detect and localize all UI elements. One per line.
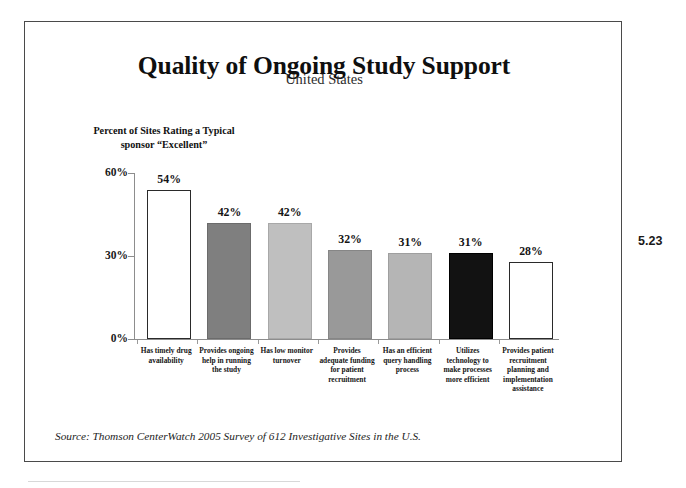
category-label-line: query handling xyxy=(376,356,438,366)
y-axis-tick-label: 30% xyxy=(82,249,128,261)
x-axis-category-label: Utilizestechnology tomake processesmore … xyxy=(437,346,499,384)
category-label-line: implementation xyxy=(497,375,559,385)
source-note: Source: Thomson CenterWatch 2005 Survey … xyxy=(55,430,421,442)
x-axis-tick xyxy=(318,340,319,344)
bar xyxy=(207,223,251,339)
bar-value-label: 54% xyxy=(139,172,199,187)
category-label-line: help in running xyxy=(195,356,257,366)
x-axis-tick xyxy=(439,340,440,344)
x-axis-tick xyxy=(197,340,198,344)
category-label-line: more efficient xyxy=(437,375,499,385)
category-label-line: recruitment xyxy=(316,375,378,385)
bar xyxy=(449,253,493,339)
category-label-line: Has timely drug xyxy=(135,346,197,356)
x-axis-tick xyxy=(499,340,500,344)
bar xyxy=(268,223,312,339)
category-label-line: technology to xyxy=(437,356,499,366)
x-axis-category-label: Has low monitorturnover xyxy=(256,346,318,365)
y-axis-line xyxy=(134,173,135,340)
bar xyxy=(147,190,191,339)
category-label-line: adequate funding xyxy=(316,356,378,366)
y-axis-tick xyxy=(128,339,134,340)
category-label-line: Provides ongoing xyxy=(195,346,257,356)
x-axis-category-label: Providesadequate fundingfor patientrecru… xyxy=(316,346,378,384)
category-label-line: make processes xyxy=(437,365,499,375)
x-axis-category-label: Provides ongoinghelp in runningthe study xyxy=(195,346,257,375)
bottom-divider xyxy=(28,481,300,482)
slide-frame: Quality of Ongoing Study Support United … xyxy=(24,21,622,462)
category-label-line: planning and xyxy=(497,365,559,375)
category-label-line: process xyxy=(376,365,438,375)
category-label-line: recruitment xyxy=(497,356,559,366)
bar-value-label: 32% xyxy=(320,232,380,247)
bar xyxy=(388,253,432,339)
bar-chart-plot-area: 0%30%60% 54%42%42%32%31%31%28% Has timel… xyxy=(25,22,623,463)
x-axis-category-label: Has timely drugavailability xyxy=(135,346,197,365)
bar-value-label: 28% xyxy=(501,244,561,259)
category-label-line: availability xyxy=(135,356,197,366)
category-label-line: turnover xyxy=(256,356,318,366)
bar-value-label: 42% xyxy=(260,205,320,220)
y-axis-tick xyxy=(128,173,134,174)
bar-value-label: 31% xyxy=(380,235,440,250)
category-label-line: Provides patient xyxy=(497,346,559,356)
x-axis-category-label: Provides patientrecruitmentplanning andi… xyxy=(497,346,559,394)
category-label-line: for patient xyxy=(316,365,378,375)
x-axis-tick xyxy=(258,340,259,344)
x-axis-tick xyxy=(378,340,379,344)
y-axis-tick xyxy=(128,256,134,257)
x-axis-tick xyxy=(137,340,138,344)
x-axis-category-label: Has an efficientquery handlingprocess xyxy=(376,346,438,375)
y-axis-tick-label: 0% xyxy=(82,332,128,344)
category-label-line: Has an efficient xyxy=(376,346,438,356)
bar-value-label: 31% xyxy=(441,235,501,250)
category-label-line: Utilizes xyxy=(437,346,499,356)
bar-value-label: 42% xyxy=(199,205,259,220)
bar xyxy=(328,250,372,339)
bar xyxy=(509,262,553,339)
y-axis-tick-label: 60% xyxy=(82,166,128,178)
category-label-line: Has low monitor xyxy=(256,346,318,356)
category-label-line: Provides xyxy=(316,346,378,356)
category-label-line: assistance xyxy=(497,384,559,394)
category-label-line: the study xyxy=(195,365,257,375)
page-number: 5.23 xyxy=(638,234,662,248)
